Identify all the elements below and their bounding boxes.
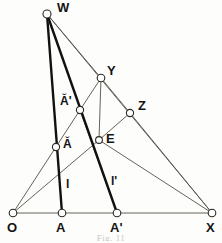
- vertex-label-Y: Y: [107, 64, 116, 77]
- vertex-label-Abreve: Ă: [63, 138, 72, 150]
- vertex-node-Abreve: [52, 143, 59, 150]
- vertex-label-Abreve_prime: Ă': [60, 95, 72, 107]
- segment-O-Abreve-prime: [13, 110, 80, 213]
- segment-Z-X: [130, 113, 212, 213]
- segment-Y-E: [99, 78, 101, 140]
- vertex-node-W: [43, 10, 51, 18]
- vertex-node-X: [208, 209, 216, 217]
- line-label-l_prime: l': [111, 175, 117, 187]
- figure-container: WYZĂ'EĂOAA'Xll' Fig. 11: [0, 0, 222, 243]
- line-label-l: l: [66, 178, 69, 190]
- segment-W-Y: [47, 14, 101, 78]
- figure-caption: Fig. 11: [0, 233, 222, 241]
- vertex-node-Abreve_prime: [76, 106, 83, 113]
- segment-line-l-W-A: [47, 14, 62, 213]
- vertex-node-Z: [126, 109, 133, 116]
- segment-Abreve-prime-Y: [80, 78, 101, 110]
- vertex-node-O: [9, 209, 17, 217]
- vertex-node-A_prime: [113, 209, 121, 217]
- vertex-label-Z: Z: [138, 99, 146, 112]
- vertex-node-E: [96, 137, 103, 144]
- vertex-node-Y: [97, 74, 105, 82]
- vertex-label-W: W: [57, 1, 69, 14]
- vertex-node-A: [58, 209, 66, 217]
- vertex-label-E: E: [106, 132, 115, 145]
- geometry-diagram: [0, 0, 222, 243]
- segment-Y-Z: [101, 78, 130, 113]
